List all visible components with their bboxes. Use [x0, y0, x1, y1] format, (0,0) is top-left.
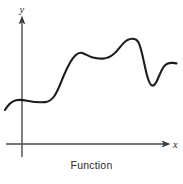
function-curve-path: [5, 39, 177, 110]
y-axis-label: y: [19, 4, 25, 15]
y-axis: y: [19, 4, 26, 157]
x-axis: x: [6, 139, 178, 150]
function-plot-svg: y x: [0, 0, 183, 184]
x-axis-label: x: [172, 139, 178, 150]
function-figure: y x Function: [0, 0, 183, 184]
figure-caption: Function: [0, 159, 183, 172]
